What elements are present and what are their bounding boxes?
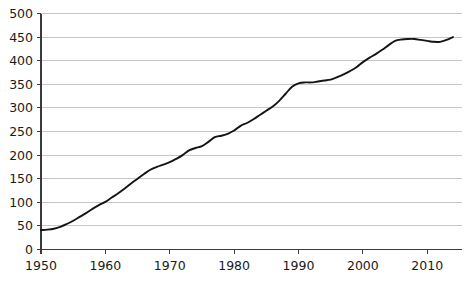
y-axis (37, 14, 41, 250)
y-tick-label-200: 200 (9, 148, 33, 163)
x-tick-label-1990: 1990 (283, 258, 315, 273)
x-tick-label-2010: 2010 (411, 258, 443, 273)
x-axis (41, 250, 462, 254)
x-tick-label-1960: 1960 (89, 258, 121, 273)
y-tick-label-50: 50 (17, 218, 33, 233)
y-tick-label-150: 150 (9, 171, 33, 186)
y-tick-label-0: 0 (25, 242, 33, 257)
y-axis-tick-labels: 050100150200250300350400450500 (9, 6, 33, 257)
line-chart: 050100150200250300350400450500 195019601… (0, 0, 466, 290)
x-axis-tick-labels: 1950196019701980199020002010 (25, 258, 443, 273)
y-tick-label-450: 450 (9, 30, 33, 45)
x-tick-label-1950: 1950 (25, 258, 57, 273)
y-tick-label-300: 300 (9, 100, 33, 115)
x-tick-label-2000: 2000 (347, 258, 379, 273)
y-tick-label-100: 100 (9, 195, 33, 210)
data-line-1 (41, 37, 453, 230)
data-series (41, 37, 453, 230)
x-tick-label-1980: 1980 (218, 258, 250, 273)
chart-canvas: 050100150200250300350400450500 195019601… (0, 0, 466, 290)
y-tick-label-250: 250 (9, 124, 33, 139)
y-tick-label-500: 500 (9, 6, 33, 21)
y-tick-label-400: 400 (9, 53, 33, 68)
x-tick-label-1970: 1970 (154, 258, 186, 273)
y-tick-label-350: 350 (9, 77, 33, 92)
